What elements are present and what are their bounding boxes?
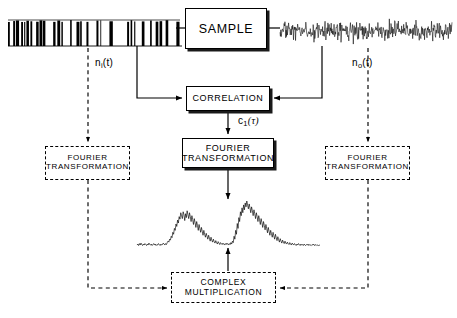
block-sample[interactable]: SAMPLE [185,8,267,49]
line-fourier-right-to-complex [280,180,368,288]
signal-label-no-base: n [352,57,358,68]
signal-label-ni-arg: (t) [103,57,113,68]
block-correlation-label: CORRELATION [193,93,264,103]
block-fourier-left-line2: TRANSFORMATION [46,163,129,172]
line-fourier-left-to-complex [88,180,167,288]
signal-label-output-noise: no(t) [352,57,373,68]
signal-label-ni-sub: i [101,61,103,70]
signal-label-ni-base: n [95,57,101,68]
block-fourier-transformation-center[interactable]: FOURIER TRANSFORMATION [182,138,274,168]
block-complex-line2: MULTIPLICATION [185,288,263,298]
block-fourier-right-line2: TRANSFORMATION [326,163,409,172]
block-fourier-center-line2: TRANSFORMATION [182,153,274,163]
block-sample-label: SAMPLE [199,22,253,36]
signal-label-c1-arg: (τ) [248,115,259,126]
block-fourier-transformation-left[interactable]: FOURIER TRANSFORMATION [45,146,130,180]
signal-label-c1-sub: 1 [243,119,247,128]
signal-label-no-sub: o [358,61,362,70]
signal-label-correlation-output: c1(τ) [238,115,259,126]
input-signal-waveform [8,20,182,46]
output-signal-waveform [280,19,452,44]
block-fourier-transformation-right[interactable]: FOURIER TRANSFORMATION [325,146,410,180]
block-correlation[interactable]: CORRELATION [186,86,270,111]
signal-label-no-arg: (t) [362,57,372,68]
block-complex-multiplication[interactable]: COMPLEX MULTIPLICATION [171,272,276,303]
spectrum-waveform [137,201,320,246]
signal-label-input-noise: ni(t) [95,57,113,68]
line-left-to-correlation [137,46,182,98]
line-right-to-correlation [274,46,322,98]
block-fourier-center-line1: FOURIER [206,143,251,153]
block-diagram: SAMPLE CORRELATION FOURIER TRANSFORMATIO… [0,0,457,318]
